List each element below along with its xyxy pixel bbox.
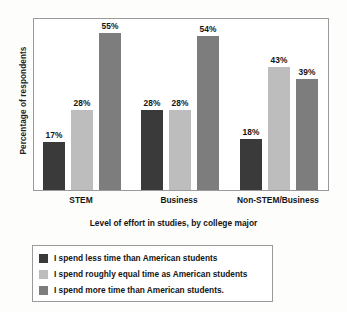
legend-swatch-icon — [39, 254, 48, 263]
legend-item: I spend more time than American students… — [39, 282, 266, 298]
bar-column: 39% — [296, 19, 318, 190]
legend-item: I spend roughly equal time as American s… — [39, 266, 266, 282]
x-axis-tick-label: Non-STEM/Business — [219, 195, 337, 205]
legend-item-label: I spend roughly equal time as American s… — [54, 270, 247, 278]
bar — [71, 110, 93, 190]
bar — [296, 79, 318, 190]
bar-value-label: 54% — [188, 24, 228, 34]
bar-value-label: 18% — [231, 127, 271, 137]
bar — [268, 67, 290, 190]
chart-legend: I spend less time than American students… — [32, 245, 273, 302]
legend-swatch-icon — [39, 270, 48, 279]
legend-item-label: I spend less time than American students — [54, 254, 217, 262]
bar — [99, 33, 121, 190]
bar-group: 17%28%55% — [43, 19, 121, 190]
bar-group: 18%43%39% — [240, 19, 318, 190]
bar-column: 18% — [240, 19, 262, 190]
bar-value-label: 55% — [90, 21, 130, 31]
bars-container: 17%28%55%28%28%54%18%43%39% — [34, 19, 328, 190]
x-axis-title: Level of effort in studies, by college m… — [0, 218, 347, 228]
bar-column: 43% — [268, 19, 290, 190]
bar-group: 28%28%54% — [141, 19, 219, 190]
legend-item-label: I spend more time than American students… — [54, 286, 224, 294]
bar — [240, 139, 262, 190]
bar-value-label: 17% — [34, 130, 74, 140]
bar-column: 28% — [169, 19, 191, 190]
bar-value-label: 43% — [259, 55, 299, 65]
bar-column: 28% — [71, 19, 93, 190]
bar-chart-figure: Percentage of respondents 17%28%55%28%28… — [0, 0, 347, 312]
y-axis-title: Percentage of respondents — [19, 16, 28, 186]
bar-column: 55% — [99, 19, 121, 190]
bar — [43, 142, 65, 190]
bar-value-label: 28% — [160, 98, 200, 108]
plot-area: 17%28%55%28%28%54%18%43%39% — [33, 18, 329, 191]
bar-column: 54% — [197, 19, 219, 190]
bar — [197, 36, 219, 190]
legend-swatch-icon — [39, 286, 48, 295]
legend-item: I spend less time than American students — [39, 250, 266, 266]
bar — [169, 110, 191, 190]
bar-value-label: 28% — [62, 98, 102, 108]
bar — [141, 110, 163, 190]
bar-value-label: 39% — [287, 67, 327, 77]
